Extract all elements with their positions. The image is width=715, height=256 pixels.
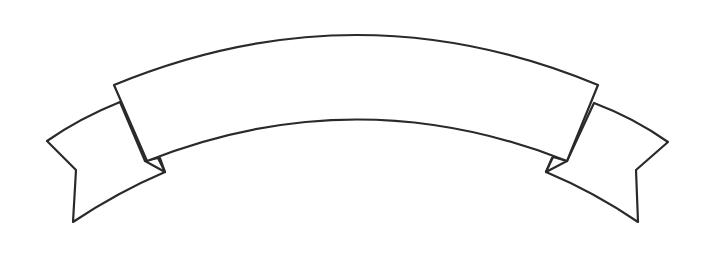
ribbon-banner-illustration: [0, 0, 715, 256]
ribbon-banner-graphic: [0, 0, 715, 256]
ribbon-main-band: [114, 35, 598, 161]
